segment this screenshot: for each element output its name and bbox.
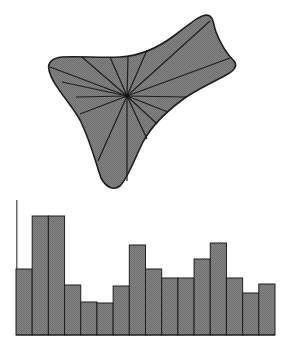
bar-chart (16, 200, 275, 335)
bar-2 (32, 216, 48, 335)
bar-12 (194, 259, 210, 335)
bar-15 (243, 293, 259, 335)
bar-7 (113, 286, 129, 335)
blob-center (125, 94, 129, 98)
polar-blob (49, 15, 236, 188)
bar-13 (210, 243, 226, 335)
bar-1 (16, 269, 32, 335)
bar-9 (146, 269, 162, 335)
bar-4 (65, 285, 81, 335)
figure (0, 0, 290, 350)
bar-5 (81, 302, 97, 335)
bar-6 (97, 303, 113, 335)
bars (16, 216, 275, 335)
bar-3 (48, 216, 64, 335)
bar-14 (226, 278, 242, 335)
bar-10 (162, 278, 178, 335)
bar-8 (129, 245, 145, 335)
bar-16 (259, 284, 275, 335)
bar-11 (178, 278, 194, 335)
